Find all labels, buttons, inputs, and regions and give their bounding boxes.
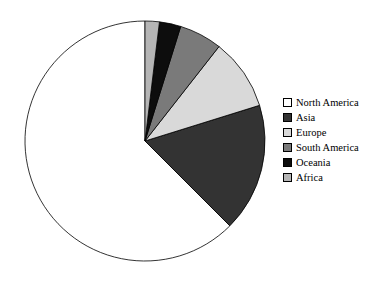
pie-slice-group <box>25 21 265 261</box>
legend-item-europe[interactable]: Europe <box>283 125 326 140</box>
legend-swatch-icon <box>283 173 292 182</box>
pie-chart-figure: North AmericaAsiaEuropeSouth AmericaOcea… <box>0 0 380 287</box>
legend-swatch-icon <box>283 113 292 122</box>
legend-swatch-icon <box>283 143 292 152</box>
legend-item-oceania[interactable]: Oceania <box>283 155 330 170</box>
legend-item-north-america[interactable]: North America <box>283 95 359 110</box>
legend-swatch-icon <box>283 158 292 167</box>
legend-item-label: North America <box>296 95 359 110</box>
chart-legend: North AmericaAsiaEuropeSouth AmericaOcea… <box>283 95 378 185</box>
legend-item-label: Asia <box>296 110 315 125</box>
legend-item-label: Oceania <box>296 155 330 170</box>
legend-item-label: Europe <box>296 125 326 140</box>
legend-item-asia[interactable]: Asia <box>283 110 315 125</box>
legend-swatch-icon <box>283 128 292 137</box>
legend-swatch-icon <box>283 98 292 107</box>
legend-item-africa[interactable]: Africa <box>283 170 323 185</box>
legend-item-label: Africa <box>296 170 323 185</box>
legend-item-label: South America <box>296 140 359 155</box>
legend-item-south-america[interactable]: South America <box>283 140 359 155</box>
